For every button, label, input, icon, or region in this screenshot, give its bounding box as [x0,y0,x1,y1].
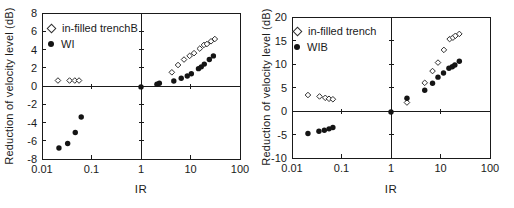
data-point-diamond [435,60,441,66]
data-point-circle [207,57,212,62]
data-point-circle [179,76,184,81]
x-axis-title: IR [135,183,148,195]
data-point-diamond [430,68,436,74]
data-point-circle [157,81,162,86]
data-point-diamond [422,80,428,86]
data-point-circle [422,88,427,93]
legend-label: in-filled trench [308,25,376,37]
data-point-circle [330,125,335,130]
y-axis-title: Reduction of velocity level (dB) [260,8,272,165]
data-point-circle [65,141,70,146]
figure: 86420-2-4-6-80.010.1110100 Reduction of … [0,0,514,208]
data-point-circle [138,84,143,89]
data-point-diamond [197,46,203,52]
data-point-circle [211,53,216,58]
data-point-circle [388,109,393,114]
legend-item: in-filled trench [294,23,376,39]
x-tick-label: 100 [231,163,249,175]
data-point-circle [73,130,78,135]
data-point-circle [452,62,457,67]
data-point-circle [79,114,84,119]
y-tick-label: 20 [275,11,287,23]
legend: in-filled trench WIB [294,23,376,55]
data-point-circle [171,78,176,83]
x-tick-label: 0.1 [334,162,349,174]
right-chart: 20151050-5-100.010.1110100 Reduction of … [257,0,514,208]
y-tick-label: 2 [31,62,37,74]
y-tick-label: -4 [27,117,37,129]
data-point-diamond [181,57,187,63]
x-tick-label: 10 [434,162,446,174]
x-tick-label: 1 [388,162,394,174]
legend-item: WIB [294,39,376,55]
x-tick-label: 0.1 [84,163,99,175]
data-point-circle [404,96,409,101]
y-tick-label: -2 [27,98,37,110]
legend-label: WI [61,38,74,50]
filled-circle-marker-icon [294,44,300,50]
x-tick-label: 0.01 [281,162,302,174]
y-tick-label: 5 [281,82,287,94]
data-point-diamond [169,70,175,76]
x-tick-label: 100 [481,162,499,174]
series-filled-circle [56,53,216,151]
data-point-circle [316,129,321,134]
data-point-circle [435,74,440,79]
x-tick-label: 10 [184,163,196,175]
y-tick-label: -6 [27,135,37,147]
legend-label: in-filled trenchB [62,22,138,34]
data-point-diamond [76,78,82,84]
y-tick-label: 6 [31,25,37,37]
x-tick-label: 0.01 [31,163,52,175]
data-point-diamond [305,92,311,98]
legend-item: WI [48,36,138,52]
x-tick-label: 1 [138,163,144,175]
data-point-diamond [175,62,181,68]
x-axis-title: IR [385,183,398,195]
data-point-circle [457,58,462,63]
y-tick-label: 10 [275,58,287,70]
y-axis-title: Reduction of velocity level (dB) [3,7,15,164]
y-tick-label: 15 [275,35,287,47]
data-point-circle [202,61,207,66]
data-point-circle [305,131,310,136]
y-tick-label: 8 [31,7,37,19]
data-point-diamond [317,94,323,100]
open-diamond-marker-icon [293,26,303,36]
left-chart: 86420-2-4-6-80.010.1110100 Reduction of … [0,0,257,208]
legend-item: in-filled trenchB [48,20,138,36]
filled-circle-marker-icon [48,41,54,47]
data-point-diamond [441,47,447,53]
data-point-circle [56,145,61,150]
open-diamond-marker-icon [47,23,57,33]
y-tick-label: 0 [281,105,287,117]
data-point-circle [441,70,446,75]
legend: in-filled trenchB WI [48,20,138,52]
data-point-diamond [55,78,61,84]
data-point-circle [189,71,194,76]
y-tick-label: 0 [31,80,37,92]
data-point-circle [430,81,435,86]
data-point-circle [322,128,327,133]
y-tick-label: 4 [31,44,37,56]
y-tick-label: -5 [277,129,287,141]
legend-label: WIB [307,41,328,53]
